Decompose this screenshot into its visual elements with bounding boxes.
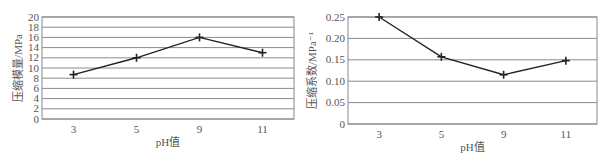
plus-marker-icon bbox=[133, 54, 141, 62]
y-tick-label: 0.05 bbox=[326, 96, 346, 108]
plot-area bbox=[348, 17, 597, 124]
data-line bbox=[379, 17, 566, 75]
compression-modulus-plot: 0246810121416182035911pH值压缩模量/MPa bbox=[0, 0, 300, 156]
x-axis-label: pH值 bbox=[156, 136, 180, 148]
x-tick-label: 3 bbox=[71, 123, 77, 135]
x-tick-label: 11 bbox=[561, 128, 572, 140]
y-tick-label: 0.10 bbox=[326, 75, 346, 87]
compression-coefficient-chart: 00.050.100.150.200.2535911pH值压缩系数/MPa⁻¹ bbox=[300, 0, 613, 156]
plus-marker-icon bbox=[375, 13, 383, 21]
y-tick-label: 8 bbox=[34, 72, 40, 84]
plus-marker-icon bbox=[196, 33, 204, 41]
x-tick-label: 5 bbox=[134, 123, 140, 135]
y-tick-label: 20 bbox=[28, 11, 40, 23]
plus-marker-icon bbox=[70, 71, 78, 79]
plus-marker-icon bbox=[500, 71, 508, 79]
y-tick-label: 18 bbox=[28, 21, 40, 33]
x-axis-label: pH值 bbox=[460, 141, 484, 153]
compression-modulus-chart: 0246810121416182035911pH值压缩模量/MPa bbox=[0, 0, 300, 156]
x-tick-label: 3 bbox=[376, 128, 382, 140]
plus-marker-icon bbox=[259, 49, 267, 57]
y-tick-label: 0.20 bbox=[326, 32, 346, 44]
compression-coefficient-plot: 00.050.100.150.200.2535911pH值压缩系数/MPa⁻¹ bbox=[300, 0, 613, 156]
y-axis-label: 压缩系数/MPa⁻¹ bbox=[306, 32, 318, 109]
x-tick-label: 5 bbox=[439, 128, 445, 140]
y-tick-label: 0.25 bbox=[326, 11, 346, 23]
y-tick-label: 0.15 bbox=[326, 53, 346, 65]
data-line bbox=[74, 37, 263, 74]
x-tick-label: 11 bbox=[257, 123, 268, 135]
plus-marker-icon bbox=[562, 57, 570, 65]
x-tick-label: 9 bbox=[197, 123, 203, 135]
x-tick-label: 9 bbox=[501, 128, 507, 140]
y-tick-label: 0 bbox=[340, 118, 346, 130]
y-axis-label: 压缩模量/MPa bbox=[12, 34, 24, 102]
